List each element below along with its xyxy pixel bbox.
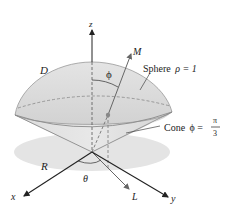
cone-lhs: ϕ = — [190, 122, 204, 133]
cone-fraction-denominator: 3 — [213, 129, 217, 138]
sphere-word: Sphere — [143, 63, 171, 74]
region-d-label: D — [39, 64, 48, 76]
point-on-ray — [106, 113, 110, 117]
x-axis-label: x — [10, 191, 16, 202]
spherical-region-diagram: z x y D R M L ϕ θ Sphere ρ = 1 Cone ϕ = … — [0, 0, 226, 220]
sphere-equation: ρ = 1 — [174, 63, 197, 74]
y-axis-label: y — [170, 193, 176, 204]
z-axis-label: z — [88, 19, 93, 29]
region-r-label: R — [40, 160, 48, 172]
point-m-label: M — [132, 46, 142, 57]
cone-fraction-numerator: π — [213, 116, 217, 125]
theta-label: θ — [83, 173, 88, 184]
phi-label: ϕ — [106, 68, 112, 80]
cone-word: Cone — [164, 122, 186, 133]
sphere-annotation: Sphere ρ = 1 — [143, 63, 197, 74]
cone-annotation: Cone ϕ = — [164, 122, 203, 133]
point-l-label: L — [131, 191, 138, 202]
